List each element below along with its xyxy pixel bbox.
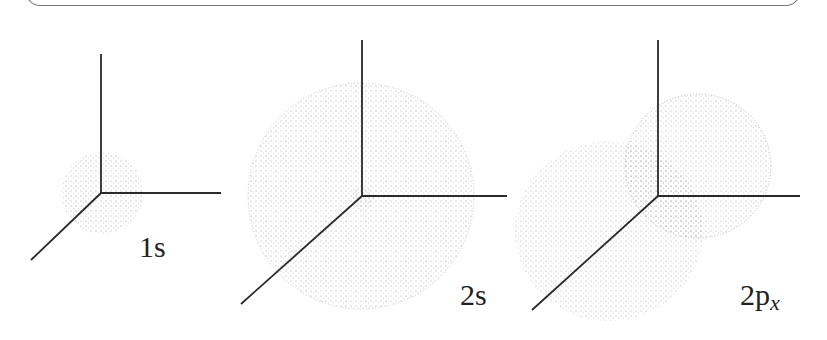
orbital-diagram <box>0 0 827 340</box>
label-2p-text: 2p <box>740 278 770 311</box>
label-2s-text: 2s <box>460 278 487 311</box>
label-x-subscript: x <box>770 290 780 315</box>
2px-lobe-back <box>625 94 771 238</box>
label-2s: 2s <box>460 280 487 310</box>
1s-axes <box>31 54 221 260</box>
orbital-1s <box>31 54 221 260</box>
label-2px: 2px <box>740 280 780 310</box>
label-1s: 1s <box>139 232 166 262</box>
label-1s-text: 1s <box>139 230 166 263</box>
orbital-2s <box>241 40 507 309</box>
